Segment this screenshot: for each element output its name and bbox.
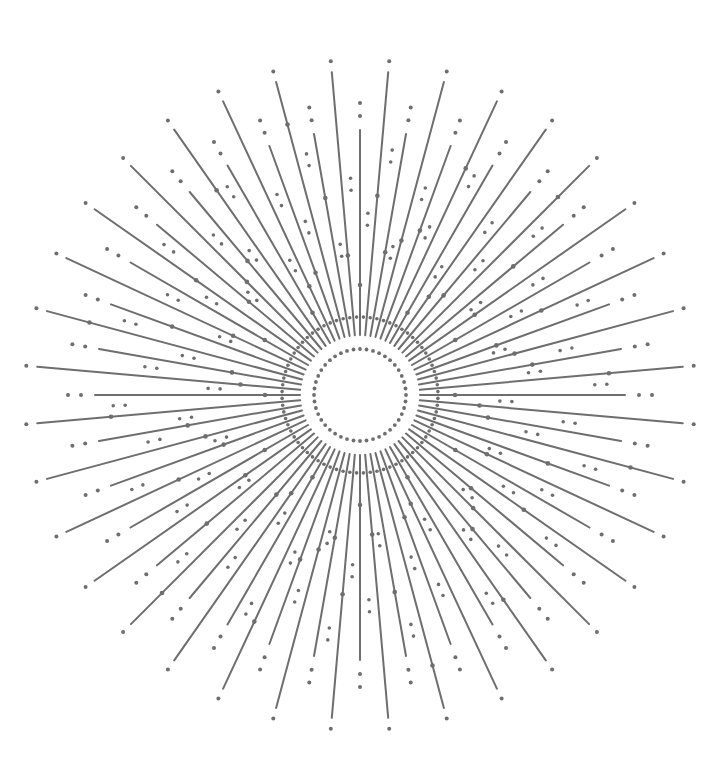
ray-tip-dot: [105, 247, 109, 251]
between-dot: [400, 327, 404, 331]
ring-dot: [400, 412, 404, 416]
ray-tip-dot: [358, 114, 362, 118]
between-dot: [362, 315, 366, 319]
long-ray: [66, 258, 305, 370]
ray-tip-dot: [96, 298, 100, 302]
between-dot: [388, 465, 392, 469]
between-dot: [389, 160, 393, 164]
between-dot: [220, 242, 224, 246]
ray-bead: [316, 547, 321, 552]
between-dot: [335, 468, 339, 472]
between-dot: [175, 510, 179, 514]
ray-tip-dot: [134, 581, 138, 585]
ray-bead: [245, 280, 250, 285]
ray-tip-dot: [310, 668, 314, 672]
ray-tip-dot: [271, 717, 275, 721]
ray-bead: [472, 312, 477, 317]
ray-tip-dot: [79, 393, 83, 397]
short-ray: [111, 304, 304, 374]
ray-tip-dot: [358, 101, 362, 105]
between-dot: [282, 376, 286, 380]
ray-bead: [285, 122, 290, 127]
ring-dot: [316, 412, 320, 416]
between-dot: [328, 321, 332, 325]
ray-tip-dot: [633, 345, 637, 349]
between-dot: [420, 441, 424, 445]
between-dot: [351, 563, 355, 567]
ray-tip-dot: [83, 441, 87, 445]
between-dot: [306, 336, 310, 340]
ray-tip-dot: [646, 342, 650, 346]
ray-tip-dot: [595, 630, 599, 634]
between-dot: [275, 193, 279, 197]
ray-bead: [375, 194, 380, 199]
between-dot: [172, 250, 176, 254]
between-dot: [355, 471, 359, 475]
between-dot: [461, 488, 465, 492]
between-dot: [491, 602, 495, 606]
between-dot: [400, 459, 404, 463]
between-dot: [307, 231, 311, 235]
between-dot: [505, 553, 509, 557]
ring-dot: [345, 349, 349, 353]
between-dot: [281, 383, 285, 387]
ray-bead: [522, 507, 527, 512]
ray-tip-dot: [682, 480, 686, 484]
between-dot: [394, 324, 398, 328]
ring-dot: [383, 432, 387, 436]
ray-bead: [238, 382, 243, 387]
between-dot: [469, 308, 473, 312]
ray-tip-dot: [611, 247, 615, 251]
ray-bead: [247, 300, 252, 305]
ray-tip-dot: [34, 306, 38, 310]
ray-tip-dot: [263, 131, 267, 135]
between-dot: [570, 346, 574, 350]
ring-dot: [393, 423, 397, 427]
ray-bead: [310, 310, 315, 315]
between-dot: [536, 433, 540, 437]
ray-bead: [485, 452, 490, 457]
between-dot: [368, 471, 372, 475]
short-ray: [416, 416, 609, 486]
ray-tip-dot: [179, 607, 183, 611]
between-dot: [378, 544, 382, 548]
between-dot: [328, 626, 332, 630]
between-dot: [488, 447, 492, 451]
ray-tip-dot: [611, 539, 615, 543]
long-ray: [414, 258, 653, 370]
between-dot: [430, 423, 434, 427]
ray-tip-dot: [500, 697, 504, 701]
long-ray: [223, 101, 335, 340]
ray-tip-dot: [310, 118, 314, 122]
ray-bead: [243, 473, 248, 478]
between-dot: [338, 243, 342, 247]
between-dot: [531, 283, 535, 287]
between-dot: [573, 422, 577, 426]
ray-tip-dot: [258, 119, 262, 123]
ray-tip-dot: [170, 617, 174, 621]
ring-dot: [358, 347, 362, 351]
between-dot: [388, 321, 392, 325]
ring-dot: [333, 432, 337, 436]
between-dot: [512, 491, 516, 495]
ray-bead: [346, 253, 351, 258]
short-ray: [416, 304, 609, 374]
between-dot: [297, 589, 301, 593]
ray-bead: [607, 371, 612, 376]
between-dot: [416, 446, 420, 450]
between-dot: [246, 291, 250, 295]
between-dot: [367, 598, 371, 602]
between-dot: [215, 302, 219, 306]
ring-dot: [328, 358, 332, 362]
ray-tip-dot: [632, 585, 636, 589]
long-ray: [223, 449, 335, 688]
between-dot: [181, 354, 185, 358]
between-dot: [213, 439, 217, 443]
ray-bead: [628, 465, 633, 470]
between-dot: [226, 185, 230, 189]
ray-tip-dot: [96, 488, 100, 492]
between-dot: [497, 544, 501, 548]
ray-tip-dot: [70, 444, 74, 448]
ray-tip-dot: [504, 140, 508, 144]
between-dot: [255, 299, 259, 303]
